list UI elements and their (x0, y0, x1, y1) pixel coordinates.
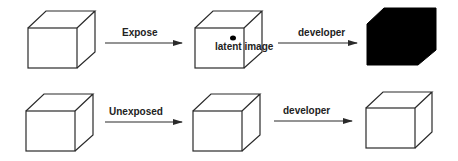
label-expose: Expose (122, 27, 158, 38)
label-unexposed: Unexposed (109, 106, 163, 117)
label-developer-row1: developer (298, 27, 345, 38)
arrow-expose: Expose (105, 27, 182, 43)
label-latent-image: latent image (215, 41, 274, 52)
latent-image-dot (230, 36, 236, 41)
cube-unexposed-middle (193, 94, 260, 151)
cube-latent-image (195, 11, 262, 68)
cube-unexposed-start-row2 (26, 94, 93, 151)
cube-developed-black (367, 8, 436, 65)
arrow-unexposed: Unexposed (105, 106, 182, 122)
cube-developed-white (366, 92, 432, 148)
photographic-development-diagram: Expose latent image developer Unexposed … (0, 0, 458, 161)
arrow-developer-row1: developer (278, 27, 357, 43)
label-developer-row2: developer (283, 105, 330, 116)
arrow-developer-row2: developer (274, 105, 352, 121)
cube-unexposed-start-row1 (28, 11, 95, 68)
